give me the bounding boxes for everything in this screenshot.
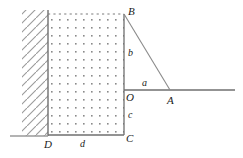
label-point-o: O — [126, 92, 134, 103]
wall-hatching — [22, 10, 48, 136]
geometry-figure: B b a O A c C d D — [0, 0, 243, 158]
label-segment-a: a — [142, 78, 147, 88]
figure-canvas — [0, 0, 243, 158]
label-segment-d: d — [80, 139, 85, 149]
label-point-c: C — [126, 133, 133, 144]
dotted-region — [48, 14, 124, 135]
label-segment-c: c — [128, 110, 132, 120]
label-point-b: B — [128, 6, 135, 17]
label-point-a: A — [167, 95, 174, 106]
label-point-d: D — [44, 139, 52, 150]
label-segment-b: b — [128, 48, 133, 58]
